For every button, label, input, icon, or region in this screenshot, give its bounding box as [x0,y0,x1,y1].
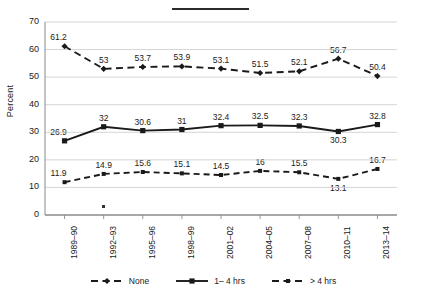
stray-dot-artifact [102,205,105,208]
chart-figure: Percent 010203040506070 1989–901992–9319… [0,0,426,298]
series-marker [62,138,67,143]
series-marker [101,66,107,72]
series-marker [297,170,301,174]
legend-marker [190,278,195,283]
legend-marker [104,278,110,284]
legend-item-3[interactable]: > 4 hrs [271,276,336,286]
series-marker [336,177,340,181]
series-marker [180,171,184,175]
chart-legend: None1– 4 hrs> 4 hrs [0,276,426,286]
legend-item-1[interactable]: None [90,276,149,286]
series-marker [141,170,145,174]
legend-label: 1– 4 hrs [214,276,245,286]
legend-swatch-icon [271,276,305,286]
series-marker [179,63,185,69]
series-marker [218,123,223,128]
legend-swatch-icon [90,276,124,286]
series-marker [258,123,263,128]
series-marker [375,167,379,171]
series-marker [375,122,380,127]
series-marker [296,68,302,74]
series-marker [336,129,341,134]
legend-label: > 4 hrs [310,276,336,286]
legend-label: None [129,276,149,286]
series-marker [63,180,67,184]
series-marker [257,70,263,76]
series-marker [101,124,106,129]
legend-swatch-icon [175,276,209,286]
series-marker [102,172,106,176]
series-marker [219,173,223,177]
legend-marker [286,279,290,283]
series-marker [179,127,184,132]
series-marker [374,73,380,79]
series-marker [297,123,302,128]
plot-area [0,0,426,298]
series-marker [140,128,145,133]
series-marker [218,66,224,72]
series-marker [258,169,262,173]
legend-item-2[interactable]: 1– 4 hrs [175,276,245,286]
series-marker [140,64,146,70]
series-marker [335,56,341,62]
